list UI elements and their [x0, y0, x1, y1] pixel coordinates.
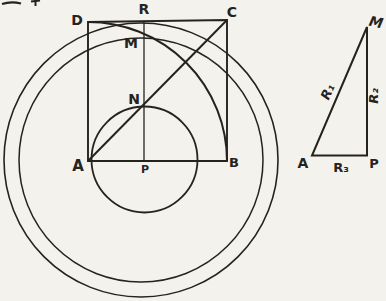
label-R: R: [139, 1, 150, 17]
scanned-geometry-figure: D R C M N A P B M A P R₁ R₂ R₃: [0, 0, 386, 301]
label-C: C: [227, 4, 237, 20]
triangle-label-P: P: [369, 156, 379, 171]
label-D: D: [71, 12, 83, 28]
label-B: B: [229, 155, 239, 170]
side-label-R3: R₃: [333, 160, 349, 175]
label-A: A: [72, 157, 84, 175]
figure-svg: D R C M N A P B M A P R₁ R₂ R₃: [0, 0, 386, 301]
paper-background: [0, 0, 386, 301]
side-label-R2: R₂: [366, 88, 381, 104]
label-P: P: [141, 163, 149, 176]
triangle-label-A: A: [298, 155, 309, 171]
label-M: M: [124, 35, 138, 51]
label-N: N: [128, 91, 140, 107]
